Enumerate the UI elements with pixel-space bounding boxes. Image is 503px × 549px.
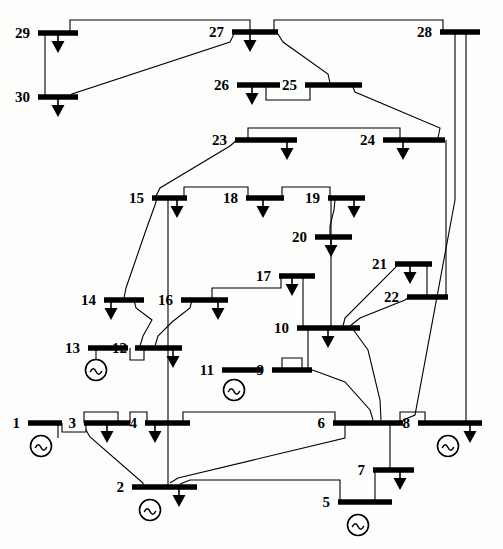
branch-line-2-5 [180, 480, 340, 502]
branch-line-14-15 [124, 198, 157, 298]
load-arrow-bus-17 [286, 276, 299, 296]
bus-label-8: 8 [403, 415, 411, 431]
load-arrow-bus-2 [173, 487, 186, 507]
branch-line-27-30 [70, 34, 234, 97]
load-arrowhead [212, 308, 225, 320]
bus-label-2: 2 [117, 479, 125, 495]
bus-label-25: 25 [282, 77, 297, 93]
generator-bus-13[interactable] [86, 360, 107, 381]
load-arrow-bus-15 [171, 198, 184, 218]
branch-line-4-6 [183, 412, 335, 423]
bus-label-3: 3 [69, 415, 77, 431]
branch-line-12-14 [134, 300, 152, 346]
bus-label-13: 13 [65, 340, 80, 356]
load-arrow-bus-20 [325, 237, 338, 257]
load-arrowhead [173, 495, 186, 507]
load-arrowhead [257, 206, 270, 218]
load-arrowhead [325, 245, 338, 257]
load-arrow-bus-23 [281, 140, 294, 160]
load-arrow-bus-24 [397, 140, 410, 160]
load-arrow-bus-8 [464, 423, 477, 443]
generator-bus-8[interactable] [438, 436, 459, 457]
generator-bus-2[interactable] [140, 500, 161, 521]
generator-bus-5[interactable] [348, 515, 369, 536]
bus-label-21: 21 [372, 256, 387, 272]
power-system-diagram: 1234567891011121314151617181920212223242… [0, 0, 503, 549]
load-arrowhead [464, 431, 477, 443]
load-arrow-bus-14 [105, 300, 118, 320]
single-line-diagram-canvas: 1234567891011121314151617181920212223242… [0, 0, 503, 549]
bus-label-14: 14 [81, 292, 97, 308]
load-arrow-bus-27 [244, 32, 257, 52]
bus-label-20: 20 [292, 229, 307, 245]
bus-label-15: 15 [129, 190, 144, 206]
load-arrowhead [394, 478, 407, 490]
bus-label-7: 7 [358, 462, 366, 478]
load-arrowhead [281, 148, 294, 160]
load-arrow-bus-16 [212, 300, 225, 320]
branch-line-15-18 [184, 187, 248, 198]
load-arrow-bus-7 [394, 470, 407, 490]
load-arrow-bus-18 [257, 198, 270, 218]
load-arrowhead [348, 206, 361, 218]
branch-line-2-4 [86, 430, 143, 487]
bus-label-29: 29 [15, 25, 30, 41]
load-arrow-bus-4 [149, 423, 162, 443]
load-arrowhead [52, 41, 65, 53]
branch-line-10-22 [350, 297, 409, 326]
branch-line-15-23 [156, 140, 237, 196]
bus-label-1: 1 [13, 415, 21, 431]
generator-layer [31, 360, 459, 536]
bus-layer [28, 32, 482, 502]
load-arrow-bus-21 [404, 264, 417, 284]
load-arrowhead [52, 105, 65, 117]
load-arrow-bus-29 [52, 33, 65, 53]
bus-label-11: 11 [200, 362, 214, 378]
load-arrowhead [171, 206, 184, 218]
bus-label-12: 12 [112, 340, 127, 356]
bus-label-30: 30 [15, 89, 30, 105]
bus-label-22: 22 [384, 289, 399, 305]
load-arrowhead [149, 431, 162, 443]
load-arrow-bus-3 [101, 423, 114, 443]
load-arrowhead [244, 40, 257, 52]
branch-line-2-6 [170, 423, 345, 483]
branch-line-6-28 [403, 32, 455, 420]
load-arrowhead [322, 336, 335, 348]
load-arrowhead [246, 93, 259, 105]
load-arrowhead [105, 308, 118, 320]
generator-bus-1[interactable] [31, 436, 52, 457]
bus-label-6: 6 [318, 415, 326, 431]
load-arrow-bus-10 [322, 328, 335, 348]
bus-label-23: 23 [212, 132, 227, 148]
load-arrow-bus-19 [348, 198, 361, 218]
bus-label-17: 17 [256, 268, 272, 284]
load-arrow-bus-26 [246, 85, 259, 105]
load-arrowhead [397, 148, 410, 160]
load-arrowhead [286, 284, 299, 296]
bus-label-16: 16 [158, 292, 174, 308]
generator-bus-11[interactable] [224, 380, 245, 401]
branch-line-24-25 [352, 85, 440, 138]
bus-label-4: 4 [130, 415, 138, 431]
bus-label-10: 10 [274, 320, 289, 336]
bus-label-18: 18 [223, 190, 238, 206]
bus-label-28: 28 [417, 24, 432, 40]
load-arrowhead [101, 431, 114, 443]
load-arrowhead [404, 272, 417, 284]
bus-label-19: 19 [305, 190, 320, 206]
branch-line-25-27 [278, 34, 330, 83]
bus-label-5: 5 [323, 494, 331, 510]
load-arrow-bus-30 [52, 97, 65, 117]
bus-label-24: 24 [360, 132, 376, 148]
bus-label-26: 26 [214, 77, 230, 93]
bus-label-27: 27 [209, 24, 225, 40]
bus-label-9: 9 [257, 362, 265, 378]
